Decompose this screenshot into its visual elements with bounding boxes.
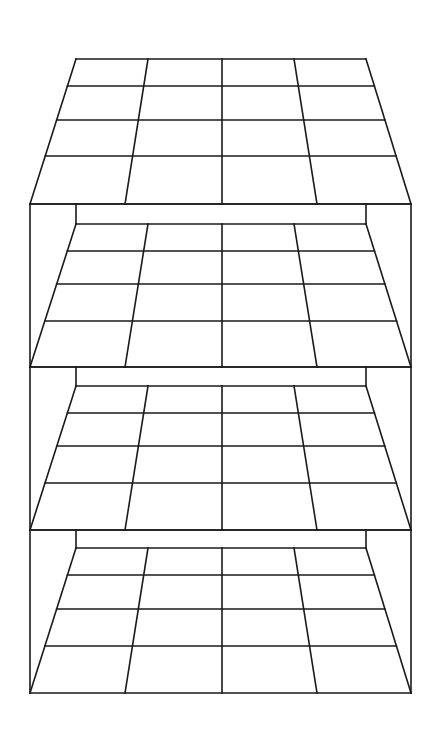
- level-3-floor-column-line-3: [294, 548, 317, 693]
- level-3-floor-column-line-0: [30, 548, 76, 693]
- top-plane-column-line-0: [30, 59, 76, 204]
- wireframe-drawing: [0, 0, 432, 731]
- level-2-floor-column-line-0: [30, 386, 76, 530]
- top-plane-column-line-4: [366, 59, 411, 204]
- level-1-floor-column-line-3: [294, 224, 317, 367]
- level-1-floor-column-line-4: [366, 224, 411, 367]
- stacked-grid-shelves-diagram: [0, 0, 432, 731]
- top-plane-column-line-1: [125, 59, 148, 204]
- level-1-floor-column-line-0: [30, 224, 76, 367]
- level-2-floor-column-line-3: [294, 386, 317, 530]
- level-2-floor-column-line-1: [125, 386, 148, 530]
- level-3-floor-column-line-4: [366, 548, 411, 693]
- top-plane-column-line-3: [294, 59, 317, 204]
- level-2-floor-column-line-4: [366, 386, 411, 530]
- level-1-floor-column-line-1: [125, 224, 148, 367]
- level-3-floor-column-line-1: [125, 548, 148, 693]
